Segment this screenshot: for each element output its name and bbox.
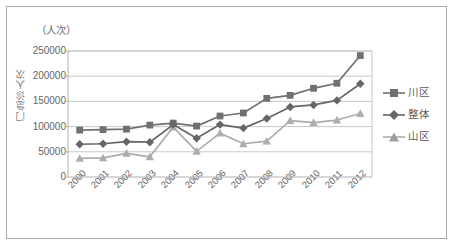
diamond-marker-icon	[383, 107, 405, 119]
legend-item-series-2[interactable]: 山区	[383, 124, 447, 146]
data-point-square	[357, 52, 364, 59]
data-point-square	[193, 123, 200, 130]
data-point-square	[334, 80, 341, 87]
data-point-diamond	[122, 138, 130, 146]
chart-legend: 川区 整体 山区	[383, 80, 447, 146]
square-marker-icon	[383, 85, 405, 97]
data-point-diamond	[309, 101, 317, 109]
data-point-triangle	[356, 109, 364, 117]
legend-label: 整体	[408, 106, 429, 121]
data-point-diamond	[192, 134, 200, 142]
data-point-square	[123, 126, 130, 133]
chart-screenshot: （人次） 门急诊人次 250000 200000 150000 100000 5…	[0, 0, 455, 247]
data-point-square	[287, 92, 294, 99]
data-point-diamond	[263, 114, 271, 122]
data-point-diamond	[216, 120, 224, 128]
data-point-diamond	[286, 103, 294, 111]
legend-item-series-1[interactable]: 整体	[383, 102, 447, 124]
data-point-diamond	[99, 140, 107, 148]
data-point-square	[240, 110, 247, 117]
data-point-square	[310, 85, 317, 92]
data-point-diamond	[75, 140, 83, 148]
data-point-triangle	[216, 129, 224, 137]
legend-label: 川区	[408, 84, 429, 99]
data-point-square	[146, 122, 153, 129]
legend-item-series-0[interactable]: 川区	[383, 80, 447, 102]
data-point-square	[100, 126, 107, 133]
data-point-diamond	[239, 124, 247, 132]
triangle-marker-icon	[383, 129, 405, 141]
data-point-square	[76, 127, 83, 134]
data-point-square	[263, 95, 270, 102]
data-point-square	[217, 113, 224, 120]
legend-label: 山区	[408, 128, 429, 143]
